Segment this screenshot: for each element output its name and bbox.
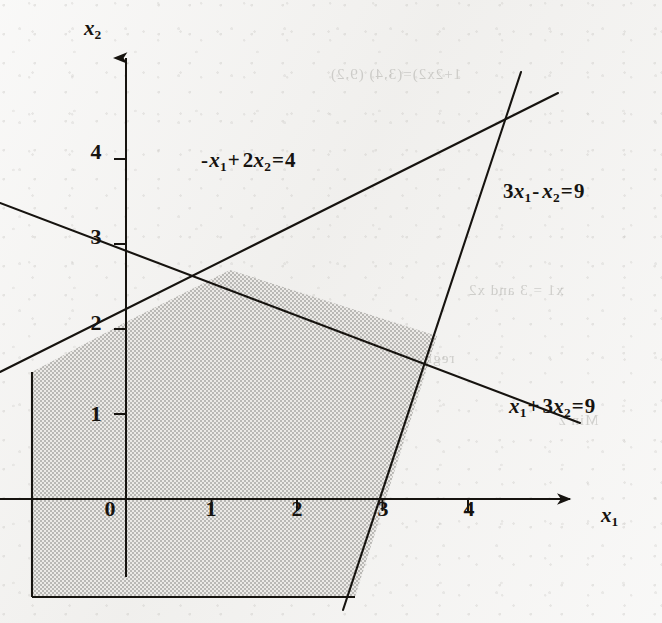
c2-var1: x <box>514 179 525 203</box>
x-tick-label: 3 <box>371 496 395 522</box>
c2-sub2: 2 <box>553 190 560 205</box>
c2-var2: x <box>542 179 553 203</box>
c2-coef1: 3 <box>503 179 514 203</box>
y-axis-title: x2 <box>84 16 101 43</box>
c1-var2: x <box>253 148 264 172</box>
constraint-label-c1: -x1+ 2x2=4 <box>200 148 296 175</box>
c3-rhs: 9 <box>585 394 596 418</box>
c3-var2: x <box>553 394 564 418</box>
figure-canvas: 1+2x2)=(3,4) (9,2) x1 = 3 and x2 region … <box>0 0 662 623</box>
c2-minus: - <box>531 179 540 203</box>
c1-equals: = <box>271 148 285 172</box>
y-tick-label: 3 <box>84 224 108 250</box>
c3-coef2: 3 <box>543 394 554 418</box>
c1-plus: + <box>227 148 241 172</box>
y-axis-title-sub: 2 <box>95 27 102 42</box>
x-tick-label: 1 <box>199 496 223 522</box>
c3-plus: + <box>526 394 540 418</box>
x-axis-title: x1 <box>601 503 618 530</box>
c1-var1: x <box>209 148 220 172</box>
y-tick-label: 1 <box>84 401 108 427</box>
x-tick-label: 4 <box>457 496 481 522</box>
x-axis-title-var: x <box>601 503 612 527</box>
c2-rhs: 9 <box>574 179 585 203</box>
c2-equals: = <box>560 179 574 203</box>
c1-sign: - <box>200 148 209 172</box>
c1-rhs: 4 <box>285 148 296 172</box>
c3-equals: = <box>571 394 585 418</box>
x-axis-title-sub: 1 <box>612 514 619 529</box>
constraint-label-c2: 3x1- x2=9 <box>503 179 585 206</box>
y-tick-label: 4 <box>84 139 108 165</box>
c3-sub2: 2 <box>564 405 571 420</box>
y-axis-title-var: x <box>84 16 95 40</box>
c1-coef2: 2 <box>243 148 254 172</box>
x-tick-label: 0 <box>98 496 122 522</box>
c1-sub1: 1 <box>220 159 227 174</box>
constraint-label-c3: x1+ 3x2=9 <box>509 394 596 421</box>
y-tick-label: 2 <box>84 310 108 336</box>
c1-sub2: 2 <box>264 159 271 174</box>
x-tick-label: 2 <box>285 496 309 522</box>
c3-var1: x <box>509 394 520 418</box>
